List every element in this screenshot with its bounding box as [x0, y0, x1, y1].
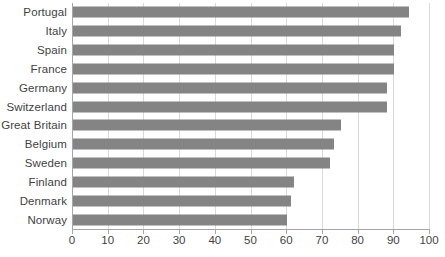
category-label-germany: Germany — [19, 82, 67, 94]
x-tick-label-80: 80 — [351, 234, 364, 246]
x-tick-30 — [179, 230, 180, 234]
bar-rows: PortugalItalySpainFranceGermanySwitzerla… — [0, 3, 445, 229]
bar-belgium — [73, 139, 334, 150]
x-tick-10 — [108, 230, 109, 234]
x-tick-label-0: 0 — [69, 234, 75, 246]
x-tick-80 — [358, 230, 359, 234]
bar-row: Germany — [0, 78, 445, 97]
category-label-sweden: Sweden — [25, 157, 67, 169]
category-label-great-britain: Great Britain — [1, 119, 67, 131]
bar-chart: PortugalItalySpainFranceGermanySwitzerla… — [0, 0, 445, 257]
x-tick-label-20: 20 — [137, 234, 150, 246]
bar-row: Switzerland — [0, 97, 445, 116]
category-label-france: France — [31, 63, 67, 75]
bar-row: France — [0, 59, 445, 78]
bar-row: Belgium — [0, 135, 445, 154]
bar-row: Finland — [0, 172, 445, 191]
bar-sweden — [73, 158, 330, 169]
x-tick-label-30: 30 — [173, 234, 186, 246]
bar-portugal — [73, 7, 409, 18]
x-tick-label-70: 70 — [315, 234, 328, 246]
x-tick-60 — [286, 230, 287, 234]
bar-denmark — [73, 195, 291, 206]
bar-france — [73, 63, 394, 74]
category-label-finland: Finland — [29, 176, 67, 188]
bar-switzerland — [73, 101, 387, 112]
x-tick-50 — [251, 230, 252, 234]
bar-great-britain — [73, 120, 341, 131]
x-tick-20 — [143, 230, 144, 234]
bar-row: Great Britain — [0, 116, 445, 135]
x-tick-label-50: 50 — [244, 234, 257, 246]
x-tick-label-100: 100 — [419, 234, 438, 246]
category-label-spain: Spain — [37, 44, 67, 56]
bar-finland — [73, 176, 294, 187]
category-label-denmark: Denmark — [20, 195, 67, 207]
category-label-belgium: Belgium — [25, 138, 67, 150]
bar-norway — [73, 214, 287, 225]
x-tick-90 — [393, 230, 394, 234]
category-label-italy: Italy — [45, 25, 67, 37]
x-tick-40 — [215, 230, 216, 234]
bar-row: Portugal — [0, 3, 445, 22]
x-tick-label-10: 10 — [101, 234, 114, 246]
x-tick-label-90: 90 — [387, 234, 400, 246]
bar-spain — [73, 45, 394, 56]
bar-row: Sweden — [0, 154, 445, 173]
x-tick-100 — [429, 230, 430, 234]
x-tick-label-60: 60 — [280, 234, 293, 246]
category-label-portugal: Portugal — [23, 6, 67, 18]
bar-row: Spain — [0, 41, 445, 60]
x-tick-0 — [72, 230, 73, 234]
x-tick-70 — [322, 230, 323, 234]
bar-row: Italy — [0, 22, 445, 41]
x-axis-tick-labels: 0102030405060708090100 — [0, 234, 445, 254]
category-label-norway: Norway — [27, 214, 67, 226]
bar-italy — [73, 26, 401, 37]
bar-germany — [73, 82, 387, 93]
x-tick-label-40: 40 — [208, 234, 221, 246]
bar-row: Denmark — [0, 191, 445, 210]
bar-row: Norway — [0, 210, 445, 229]
category-label-switzerland: Switzerland — [6, 101, 67, 113]
